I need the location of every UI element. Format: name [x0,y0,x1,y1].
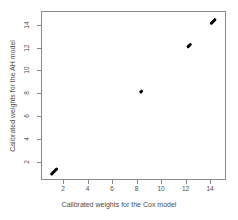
x-axis-tick-label: 10 [154,185,168,193]
y-axis-tick-label: 6 [23,109,31,123]
x-axis-tick [137,180,138,184]
x-axis-tick-label: 14 [203,185,217,193]
y-axis-tick [37,48,41,49]
data-point-cluster [210,18,218,26]
y-axis-tick-label: 14 [23,18,31,32]
x-axis-tick [63,180,64,184]
x-axis-tick [210,180,211,184]
y-axis-tick-label: 2 [23,155,31,169]
data-point-cluster [49,167,58,176]
x-axis-tick [161,180,162,184]
y-axis-tick [37,25,41,26]
y-axis-tick [37,70,41,71]
y-axis-tick [37,116,41,117]
y-axis-tick-label: 8 [23,86,31,100]
x-axis-tick-label: 4 [81,185,95,193]
plot-area [41,11,226,180]
scatter-plot-figure: 24681012142468101214 Calibrated weights … [0,0,238,220]
x-axis-tick-label: 6 [105,185,119,193]
y-axis-tick [37,139,41,140]
x-axis-tick [112,180,113,184]
y-axis-tick-label: 10 [23,63,31,77]
y-axis-tick-label: 4 [23,132,31,146]
data-points-layer [42,12,225,179]
x-axis-tick-label: 8 [130,185,144,193]
data-point-cluster [139,89,144,94]
y-axis-tick [37,93,41,94]
y-axis-title-wrapper: Calibrated weights for the AH model [6,11,18,180]
x-axis-title: Calibrated weights for the Cox model [0,200,238,209]
y-axis-tick-label: 12 [23,41,31,55]
x-axis-tick-label: 12 [179,185,193,193]
x-axis-tick [186,180,187,184]
y-axis-tick [37,162,41,163]
y-axis-title: Calibrated weights for the AH model [8,11,17,180]
x-axis-tick-label: 2 [56,185,70,193]
x-axis-tick [88,180,89,184]
data-point-cluster [186,42,192,48]
